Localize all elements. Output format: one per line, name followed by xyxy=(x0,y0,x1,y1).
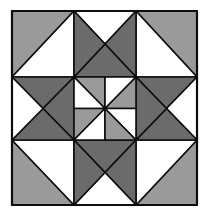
quilt-block-diagram xyxy=(0,0,210,218)
edge-right-cell xyxy=(136,77,197,140)
center-pinwheel-cell xyxy=(74,77,136,140)
edge-top-cell xyxy=(74,11,136,77)
corner-bottom-left-cell xyxy=(12,140,74,205)
corner-top-left-cell xyxy=(12,11,74,77)
edge-left-cell xyxy=(12,77,74,140)
corner-bottom-right-cell xyxy=(136,140,197,205)
edge-bottom-cell xyxy=(74,140,136,205)
corner-top-right-cell xyxy=(136,11,197,77)
